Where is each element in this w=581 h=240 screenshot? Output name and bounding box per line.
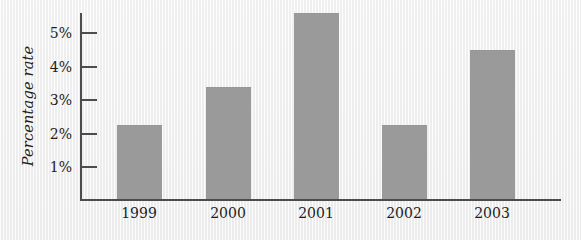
y-tick-label-5: 5% xyxy=(0,26,72,40)
x-axis-line xyxy=(80,199,561,201)
y-tick-label-container-4: 4% xyxy=(0,60,72,74)
x-tick-label-2003: 2003 xyxy=(452,206,532,220)
x-tick-label-2001: 2001 xyxy=(276,206,356,220)
y-tick-label-container-2: 2% xyxy=(0,127,72,141)
x-tick-label-2002: 2002 xyxy=(364,206,444,220)
bar-2002 xyxy=(382,125,427,199)
bar-chart-figure: Percentage rate 5% 4% 3% 2% 1% 1999 2000… xyxy=(0,0,581,240)
y-tick-label-container-1: 1% xyxy=(0,160,72,174)
y-tick-label-3: 3% xyxy=(0,93,72,107)
x-tick-label-1999: 1999 xyxy=(99,206,179,220)
y-tick-label-container-3: 3% xyxy=(0,93,72,107)
y-tick-label-container-5: 5% xyxy=(0,26,72,40)
y-tick-label-4: 4% xyxy=(0,60,72,74)
bar-2000 xyxy=(206,87,251,199)
y-tick-label-1: 1% xyxy=(0,160,72,174)
x-tick-label-2000: 2000 xyxy=(188,206,268,220)
y-tick-label-2: 2% xyxy=(0,127,72,141)
plot-area xyxy=(82,13,561,199)
bar-2001 xyxy=(294,13,339,199)
bar-2003 xyxy=(470,50,515,199)
bar-1999 xyxy=(117,125,162,199)
